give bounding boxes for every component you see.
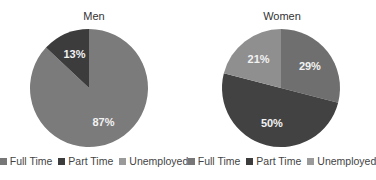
slice-label: 21% xyxy=(248,53,270,65)
legend-swatch-icon xyxy=(307,158,314,165)
legend-item-part-time: Part Time xyxy=(246,155,301,167)
legend-item-unemployed: Unemployed xyxy=(307,155,376,167)
legend-item-full-time: Full Time xyxy=(188,155,241,167)
pie-men: 87%13% xyxy=(0,0,188,180)
legend: Full TimePart TimeUnemployed xyxy=(188,155,376,167)
legend-swatch-icon xyxy=(188,158,195,165)
slice-label: 50% xyxy=(261,117,283,129)
legend-label: Part Time xyxy=(68,155,113,167)
slice-label: 29% xyxy=(299,60,321,72)
legend-label: Full Time xyxy=(198,155,241,167)
legend-label: Part Time xyxy=(256,155,301,167)
pie-women: 29%50%21% xyxy=(188,0,376,180)
slice-label: 87% xyxy=(93,116,115,128)
legend-item-unemployed: Unemployed xyxy=(119,155,188,167)
legend-item-full-time: Full Time xyxy=(0,155,52,167)
legend-label: Unemployed xyxy=(129,155,188,167)
legend-swatch-icon xyxy=(119,158,126,165)
legend-swatch-icon xyxy=(246,158,253,165)
men-chart: Men 87%13% Full TimePart TimeUnemployed xyxy=(0,0,188,180)
legend-label: Unemployed xyxy=(317,155,376,167)
legend: Full TimePart TimeUnemployed xyxy=(0,155,188,167)
women-chart: Women 29%50%21% Full TimePart TimeUnempl… xyxy=(188,0,376,180)
slice-label: 13% xyxy=(63,48,85,60)
legend-swatch-icon xyxy=(0,158,7,165)
legend-swatch-icon xyxy=(58,158,65,165)
legend-label: Full Time xyxy=(10,155,53,167)
legend-item-part-time: Part Time xyxy=(58,155,113,167)
